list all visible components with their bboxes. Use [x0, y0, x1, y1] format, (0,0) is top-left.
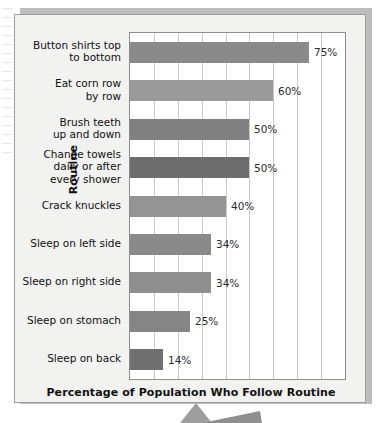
bar[interactable]	[130, 349, 163, 370]
bar-value-label: 25%	[195, 315, 218, 327]
x-axis-title: Percentage of Population Who Follow Rout…	[23, 386, 359, 399]
bar-value-label: 50%	[254, 123, 277, 135]
bar[interactable]	[130, 42, 309, 63]
decorative-arrow-icon	[150, 403, 280, 423]
plot-wrapper: 75%60%50%50%40%34%34%25%14%	[15, 15, 365, 402]
bar-value-label: 34%	[216, 277, 239, 289]
bar-row: 40%	[130, 196, 345, 217]
bar[interactable]	[130, 311, 190, 332]
bar-value-label: 50%	[254, 162, 277, 174]
chart-panel: Routine Button shirts top to bottomEat c…	[14, 14, 366, 403]
bar-row: 25%	[130, 311, 345, 332]
bar-row: 60%	[130, 80, 345, 101]
bar-row: 14%	[130, 349, 345, 370]
bar-value-label: 34%	[216, 238, 239, 250]
bar-row: 75%	[130, 42, 345, 63]
bar[interactable]	[130, 272, 211, 293]
bar[interactable]	[130, 234, 211, 255]
bar[interactable]	[130, 157, 249, 178]
bar-row: 34%	[130, 272, 345, 293]
page-margin-marks	[2, 8, 12, 158]
bar-value-label: 40%	[231, 200, 254, 212]
bar-value-label: 75%	[314, 46, 337, 58]
bar-value-label: 14%	[168, 354, 191, 366]
bar-row: 50%	[130, 119, 345, 140]
bar[interactable]	[130, 196, 226, 217]
bar-rows: 75%60%50%50%40%34%34%25%14%	[130, 33, 345, 379]
bar-value-label: 60%	[278, 85, 301, 97]
plot-area: 75%60%50%50%40%34%34%25%14%	[129, 32, 346, 380]
bar-row: 50%	[130, 157, 345, 178]
bar[interactable]	[130, 119, 249, 140]
bar-row: 34%	[130, 234, 345, 255]
bar[interactable]	[130, 80, 273, 101]
